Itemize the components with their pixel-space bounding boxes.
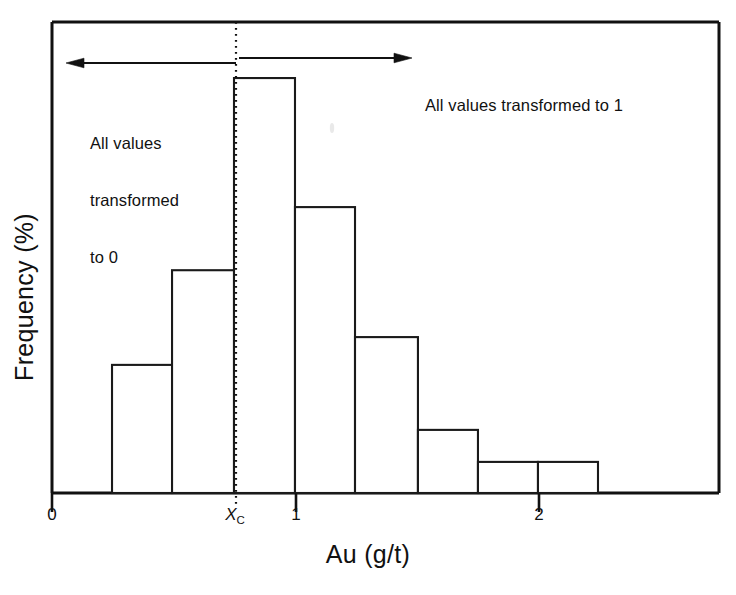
left-annotation-line-3: to 0: [90, 248, 179, 267]
x-tick-label-0: 0: [47, 505, 56, 525]
left-annotation-text: All values transformed to 0: [90, 96, 179, 305]
bar-4: [234, 78, 295, 493]
x-tick-label-xc-sub: C: [237, 514, 245, 526]
bar-6: [355, 337, 418, 493]
x-axis-title: Au (g/t): [326, 540, 410, 569]
scan-speck: [330, 123, 334, 133]
x-tick-label-xc-main: X: [225, 505, 236, 524]
bar-5: [295, 207, 355, 493]
left-arrow-annotation: [66, 58, 236, 68]
y-axis-title: Frequency (%): [10, 213, 39, 381]
right-annotation-text: All values transformed to 1: [425, 96, 623, 115]
bar-9: [538, 462, 598, 493]
x-tick-label-xc: XC: [225, 505, 245, 526]
x-tick-label-1: 1: [291, 505, 300, 525]
right-arrow-annotation: [239, 53, 412, 63]
histogram-figure: All values transformed to 0 All values t…: [0, 0, 736, 595]
left-annotation-line-1: All values: [90, 134, 179, 153]
bar-3: [172, 270, 234, 493]
x-tick-label-2: 2: [534, 505, 543, 525]
bar-7: [418, 430, 478, 493]
bar-2: [112, 365, 172, 493]
bar-8: [478, 462, 538, 493]
left-annotation-line-2: transformed: [90, 191, 179, 210]
histogram-bars: [112, 78, 598, 493]
